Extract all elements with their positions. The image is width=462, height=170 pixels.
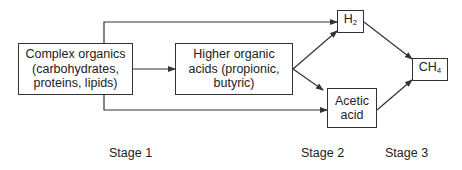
arrow-acetic-to-ch4 bbox=[377, 80, 412, 110]
stage-2-label: Stage 2 bbox=[301, 146, 344, 160]
arrow-complex-to-h2 bbox=[104, 22, 337, 43]
node-label: CH4 bbox=[419, 60, 442, 79]
node-label: butyric) bbox=[188, 76, 279, 91]
stage-1-label: Stage 1 bbox=[109, 146, 152, 160]
stage-3-label: Stage 3 bbox=[385, 146, 428, 160]
node-label: Complex organics bbox=[25, 47, 125, 62]
node-h2: H2 bbox=[337, 10, 364, 33]
arrow-acids-to-acetic bbox=[293, 69, 323, 90]
node-label: H2 bbox=[344, 12, 357, 31]
node-ch4: CH4 bbox=[412, 58, 448, 81]
node-label: proteins, lipids) bbox=[25, 76, 125, 91]
arrow-complex-to-acetic bbox=[104, 95, 327, 110]
node-label: Higher organic bbox=[188, 47, 279, 62]
arrow-acids-to-h2 bbox=[293, 31, 337, 69]
node-label: Acetic bbox=[335, 94, 369, 109]
node-complex-organics: Complex organics (carbohydrates, protein… bbox=[18, 43, 133, 95]
arrow-h2-to-ch4 bbox=[364, 22, 412, 59]
node-acetic-acid: Acetic acid bbox=[327, 88, 377, 128]
node-label: acids (propionic, bbox=[188, 62, 279, 77]
node-label: acid bbox=[335, 108, 369, 123]
node-label: (carbohydrates, bbox=[25, 62, 125, 77]
node-higher-organic-acids: Higher organic acids (propionic, butyric… bbox=[175, 43, 293, 95]
